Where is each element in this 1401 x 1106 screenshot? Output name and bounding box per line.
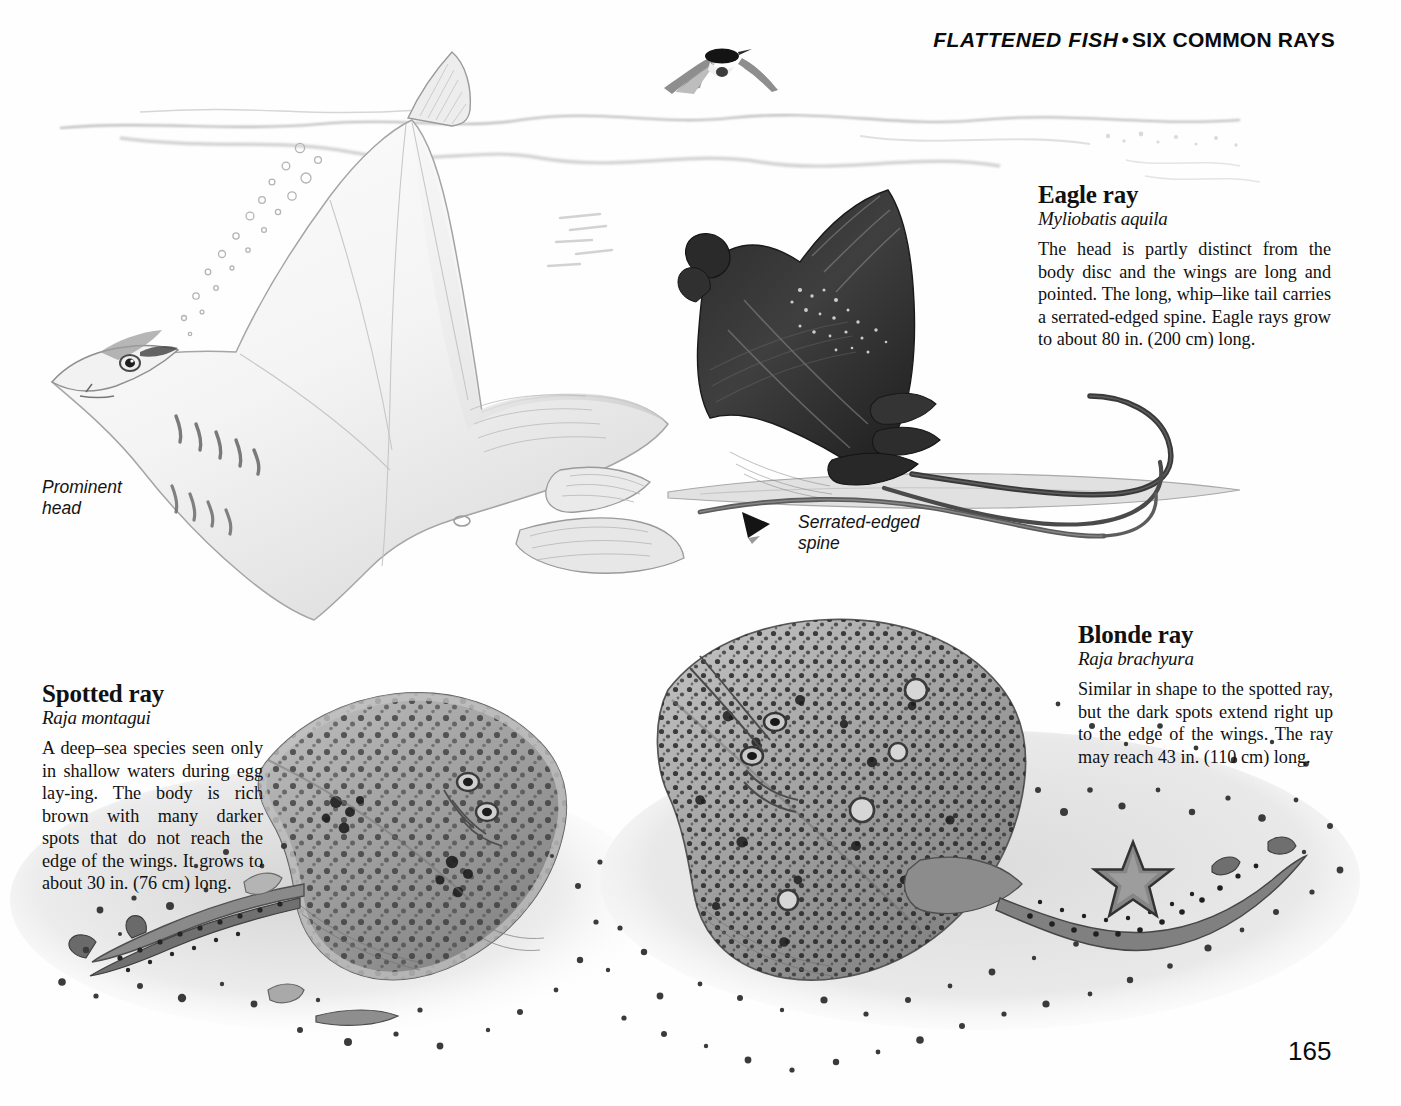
species-block-blonde-ray: Blonde ray Raja brachyura Similar in sha… (1078, 622, 1333, 768)
flying-tern-icon (664, 49, 778, 95)
species-description: The head is partly distinct from the bod… (1038, 238, 1331, 350)
callout-line-2: spine (798, 533, 920, 554)
water-surface-line (60, 109, 1260, 182)
species-scientific-name: Raja brachyura (1078, 649, 1333, 669)
species-block-spotted-ray: Spotted ray Raja montagui A deep–sea spe… (42, 681, 263, 894)
species-scientific-name: Myliobatis aquila (1038, 209, 1331, 229)
spine-pointer-arrow (742, 512, 770, 544)
species-common-name: Eagle ray (1038, 182, 1331, 208)
species-description: Similar in shape to the spotted ray, but… (1078, 678, 1333, 768)
page-number: 165 (1288, 1036, 1331, 1067)
header-section: FLATTENED FISH (933, 28, 1118, 51)
species-common-name: Blonde ray (1078, 622, 1333, 648)
callout-prominent-head: Prominent head (42, 477, 122, 520)
callout-line-1: Prominent (42, 477, 122, 498)
callout-serrated-edged-spine: Serrated-edged spine (798, 512, 920, 555)
species-common-name: Spotted ray (42, 681, 263, 707)
book-page: FLATTENED FISH•SIX COMMON RAYS Eagle ray… (0, 0, 1401, 1106)
callout-line-1: Serrated-edged (798, 512, 920, 533)
starfish (1094, 842, 1172, 916)
plate-illustration (0, 0, 1401, 1106)
callout-line-2: head (42, 498, 122, 519)
species-description: A deep–sea species seen only in shallow … (42, 737, 263, 894)
header-topic: SIX COMMON RAYS (1132, 28, 1335, 51)
header-separator: • (1119, 28, 1133, 51)
species-block-eagle-ray: Eagle ray Myliobatis aquila The head is … (1038, 182, 1331, 351)
species-scientific-name: Raja montagui (42, 708, 263, 728)
page-header: FLATTENED FISH•SIX COMMON RAYS (933, 28, 1335, 52)
bubble-trail (182, 143, 322, 335)
